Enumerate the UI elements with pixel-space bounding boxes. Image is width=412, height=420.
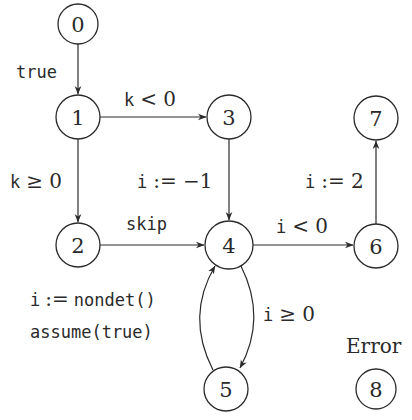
node-2: 2: [56, 223, 100, 267]
edge-label-1-3: k< 0: [124, 87, 176, 111]
assign-two: := 2: [321, 169, 364, 193]
svg-text:3: 3: [222, 106, 235, 130]
less-than-zero: < 0: [292, 214, 328, 238]
error-label: Error: [346, 334, 402, 358]
edge-5-4: [200, 266, 215, 370]
assign-op: :=: [45, 287, 69, 311]
var-i: i: [305, 172, 315, 192]
var-i: i: [30, 290, 40, 310]
node-4: 4: [205, 221, 253, 269]
edge-label-3-4: i:= −1: [137, 169, 213, 193]
node-8-error: 8: [356, 369, 396, 409]
edge-label-2-4: skip: [126, 214, 167, 234]
edge-label-4-5: i≥ 0: [263, 302, 315, 326]
node-0: 0: [58, 4, 98, 44]
edge-4-5: [240, 266, 254, 368]
edge-label-1-2: k≥ 0: [10, 169, 62, 193]
var-k: k: [10, 172, 20, 192]
var-k: k: [124, 90, 134, 110]
node-3: 3: [207, 95, 251, 139]
node-1: 1: [56, 95, 100, 139]
control-flow-graph: true k< 0 k≥ 0 i:= −1 skip i< 0 i:= 2 i≥…: [0, 0, 412, 420]
node-6: 6: [354, 224, 398, 268]
var-i: i: [137, 172, 147, 192]
geq-zero: ≥ 0: [26, 169, 62, 193]
nondet-call: nondet(): [74, 290, 156, 310]
var-i: i: [263, 305, 273, 325]
svg-text:4: 4: [222, 234, 235, 258]
geq-zero: ≥ 0: [279, 302, 315, 326]
svg-text:1: 1: [71, 106, 84, 130]
edge-label-5-4-line2: assume(true): [30, 322, 153, 342]
node-5: 5: [204, 367, 248, 411]
node-7: 7: [354, 96, 398, 140]
svg-text:7: 7: [369, 107, 382, 131]
svg-text:6: 6: [369, 235, 382, 259]
svg-text:8: 8: [369, 378, 382, 402]
edge-label-4-6: i< 0: [276, 214, 328, 238]
var-i: i: [276, 217, 286, 237]
edge-label-5-4-line1: i:=nondet(): [30, 287, 156, 311]
svg-text:5: 5: [219, 378, 232, 402]
assign-minus-one: := −1: [153, 169, 212, 193]
less-than-zero: < 0: [140, 87, 176, 111]
edge-label-6-7: i:= 2: [305, 169, 364, 193]
edge-label-0-1: true: [16, 62, 57, 82]
svg-text:0: 0: [71, 13, 84, 37]
svg-text:2: 2: [71, 234, 84, 258]
